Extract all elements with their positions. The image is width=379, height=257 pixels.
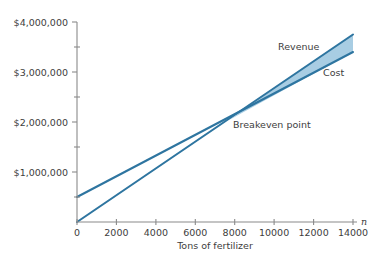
y-tick-label-2000000: $2,000,000 [14, 117, 68, 128]
x-tick-label-0: 0 [74, 227, 80, 238]
breakeven-point-label: Breakeven point [233, 119, 311, 130]
cost-series-label: Cost [323, 67, 344, 78]
x-tick-label-10000: 10000 [259, 227, 289, 238]
x-axis-variable-label: n [361, 216, 367, 227]
revenue-line [77, 35, 353, 223]
breakeven-chart: $4,000,000 $3,000,000 $2,000,000 $1,000,… [0, 0, 379, 257]
x-tick-label-2000: 2000 [104, 227, 128, 238]
x-tick-label-8000: 8000 [223, 227, 247, 238]
y-tick-label-3000000: $3,000,000 [14, 67, 68, 78]
x-tick-label-6000: 6000 [183, 227, 207, 238]
x-tick-label-14000: 14000 [338, 227, 368, 238]
y-tick-label-4000000: $4,000,000 [14, 17, 68, 28]
x-axis-title: Tons of fertilizer [176, 240, 253, 251]
revenue-series-label: Revenue [278, 41, 320, 52]
x-tick-label-4000: 4000 [144, 227, 168, 238]
chart-canvas: $4,000,000 $3,000,000 $2,000,000 $1,000,… [0, 0, 379, 257]
cost-line [77, 52, 353, 197]
y-tick-label-1000000: $1,000,000 [14, 167, 68, 178]
x-tick-label-12000: 12000 [298, 227, 328, 238]
